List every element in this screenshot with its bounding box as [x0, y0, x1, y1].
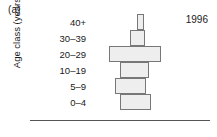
bar-row — [90, 94, 210, 110]
tick-label: 10–19 — [60, 65, 88, 76]
figure-panel-a: (a) 1996 Age class (years) 40+ 30–39 20–… — [0, 0, 217, 137]
bar-10-19 — [120, 62, 149, 78]
tick-label: 20–29 — [60, 49, 88, 60]
tick-label: 5–9 — [70, 81, 88, 92]
bar-40-plus — [137, 14, 144, 30]
tick-row-5: 0–4 — [30, 94, 88, 110]
tick-row-4: 5–9 — [30, 78, 88, 94]
bar-row — [90, 78, 210, 94]
x-axis-baseline — [30, 120, 210, 121]
bar-row — [90, 30, 210, 46]
tick-row-1: 30–39 — [30, 30, 88, 46]
bar-5-9 — [115, 78, 146, 94]
plot-area: 40+ 30–39 20–29 10–19 5–9 0–4 — [0, 14, 217, 121]
tick-row-0: 40+ — [30, 14, 88, 30]
tick-label: 0–4 — [70, 97, 88, 108]
tick-label: 40+ — [70, 17, 88, 28]
bar-0-4 — [120, 94, 151, 110]
bar-row — [90, 14, 210, 30]
tick-label: 30–39 — [60, 33, 88, 44]
bar-row — [90, 62, 210, 78]
tick-row-3: 10–19 — [30, 62, 88, 78]
tick-row-2: 20–29 — [30, 46, 88, 62]
bar-row — [90, 46, 210, 62]
bar-20-29 — [109, 46, 161, 62]
bar-30-39 — [130, 30, 146, 46]
